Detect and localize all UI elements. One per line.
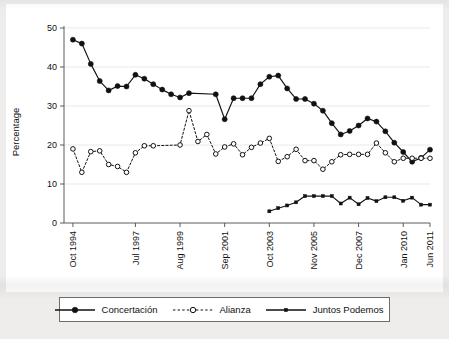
chart-legend: Concertación Alianza Juntos Podemos [59,297,390,322]
data-point [240,96,245,101]
data-point [295,201,298,204]
data-point [419,156,424,161]
y-tick-label: 20 [47,140,57,150]
x-tick-label: Oct 1994 [68,231,78,268]
x-tick-label: Sep 2001 [220,231,230,270]
legend-label-juntos-podemos: Juntos Podemos [308,304,397,315]
data-point [320,108,325,113]
data-point [393,196,396,199]
data-point [169,92,174,97]
data-point [294,96,299,101]
data-point [402,199,405,202]
data-point [115,164,120,169]
data-point [249,96,254,101]
data-point [321,167,326,172]
data-point [330,159,335,164]
legend-item-juntos-podemos[interactable]: Juntos Podemos [264,298,397,321]
data-series [70,37,432,213]
data-point [88,61,93,66]
legend-item-concertacion[interactable]: Concertación [53,298,171,321]
y-tick-label: 40 [47,62,57,72]
data-point [268,210,271,213]
gridlines [64,28,430,184]
series-alianza [71,108,433,174]
y-tick-labels: 01020304050 [47,23,57,228]
data-point [339,202,342,205]
data-point [294,147,299,152]
x-tick-label: Jan 2010 [399,231,409,268]
data-point [375,200,378,203]
data-point [428,147,433,152]
data-point [249,145,254,150]
data-point [392,140,397,145]
data-point [365,152,370,157]
data-point [312,158,317,163]
x-tick-label: Nov 2005 [309,231,319,270]
y-tick-label: 0 [52,218,57,228]
data-point [366,197,369,200]
data-point [267,136,272,141]
figure-page: 01020304050 Oct 1994Jul 1997Aug 1999Sep … [0,0,449,339]
data-point [97,149,102,154]
legend-item-alianza[interactable]: Alianza [171,298,264,321]
data-point [258,141,263,146]
data-point [267,74,272,79]
chart-figure: 01020304050 Oct 1994Jul 1997Aug 1999Sep … [6,4,443,292]
x-tick-label: Oct 2003 [265,231,275,268]
data-point [329,121,334,126]
axes [60,26,430,227]
data-point [70,37,75,42]
data-point [347,128,352,133]
legend-key-concertacion [53,304,97,316]
data-point [71,147,76,152]
data-point [115,84,120,89]
data-point [80,170,85,175]
data-point [151,82,156,87]
x-tick-label: Jun 2011 [425,231,435,267]
data-point [303,158,308,163]
data-point [420,203,423,206]
data-point [401,150,406,155]
data-point [240,152,245,157]
data-point [356,152,361,157]
data-point [285,86,290,91]
data-point [205,132,210,137]
data-point [276,159,281,164]
data-point [142,143,147,148]
data-point [286,204,289,207]
data-point [231,96,236,101]
legend-label-concertacion: Concertación [97,304,171,315]
data-point [321,195,324,198]
data-point [311,101,316,106]
data-point [151,143,156,148]
data-point [330,195,333,198]
x-tick-label: Dec 2007 [354,231,364,270]
data-point [88,149,93,154]
data-point [277,207,280,210]
data-point [285,154,290,159]
x-tick-label: Aug 1999 [175,231,185,270]
line-chart: 01020304050 Oct 1994Jul 1997Aug 1999Sep … [6,4,443,292]
data-point [186,91,191,96]
data-point [133,72,138,77]
data-point [124,84,129,89]
data-point [304,195,307,198]
data-point [303,96,308,101]
data-point [213,152,218,157]
data-point [356,123,361,128]
legend-key-juntos-podemos [264,304,308,316]
legend-label-alianza: Alianza [215,304,264,315]
data-point [124,170,129,175]
data-point [213,92,218,97]
data-point [365,116,370,121]
legend-key-alianza [171,304,215,316]
y-tick-label: 50 [47,23,57,33]
series-juntos-podemos [268,195,432,213]
data-point [231,142,236,147]
data-point [411,196,414,199]
data-point [383,151,388,156]
data-point [222,145,227,150]
data-point [79,41,84,46]
data-point [133,151,138,156]
data-point [347,152,352,157]
